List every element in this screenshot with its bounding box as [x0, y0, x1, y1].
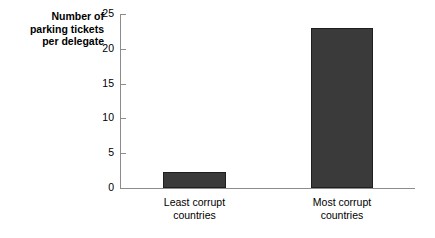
- x-axis-line: [120, 188, 415, 189]
- y-tick: 20: [120, 49, 126, 50]
- y-tick: 15: [120, 84, 126, 85]
- y-axis-title: Number of parking tickets per delegate: [8, 10, 104, 48]
- y-tick: 10: [120, 118, 126, 119]
- y-axis-line: [120, 14, 121, 188]
- y-tick-mark: [121, 84, 126, 85]
- y-tick-label: 10: [102, 111, 114, 123]
- y-tick-mark: [121, 118, 126, 119]
- plot-area: 0510152025: [120, 14, 415, 188]
- y-tick: 25: [120, 14, 126, 15]
- y-tick-label: 25: [102, 7, 114, 19]
- y-tick: 0: [120, 188, 126, 189]
- y-tick-mark: [121, 153, 126, 154]
- y-tick-mark: [121, 49, 126, 50]
- x-category-label: Least corrupt countries: [135, 196, 255, 221]
- y-tick-label: 20: [102, 42, 114, 54]
- bar-chart-figure: Number of parking tickets per delegate 0…: [0, 0, 435, 238]
- bar: [163, 172, 226, 188]
- y-tick-mark: [121, 188, 126, 189]
- y-tick-label: 0: [108, 181, 114, 193]
- y-tick: 5: [120, 153, 126, 154]
- bar: [311, 28, 373, 188]
- y-tick-label: 15: [102, 77, 114, 89]
- x-category-label: Most corrupt countries: [282, 196, 402, 221]
- y-tick-mark: [121, 14, 126, 15]
- y-tick-label: 5: [108, 146, 114, 158]
